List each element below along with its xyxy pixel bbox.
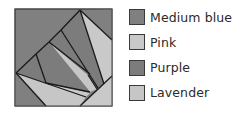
legend-item-purple: Purple	[129, 60, 236, 76]
medium-blue-swatch	[129, 9, 145, 25]
quilt-block	[0, 0, 120, 114]
purple-swatch	[129, 60, 145, 76]
legend-label: Purple	[150, 60, 190, 75]
pink-swatch	[129, 34, 145, 50]
legend: Medium blue Pink Purple Lavender	[129, 9, 236, 110]
lavender-swatch	[129, 85, 145, 101]
legend-item-medium-blue: Medium blue	[129, 9, 236, 25]
legend-item-lavender: Lavender	[129, 85, 236, 101]
quilt-block-drawing	[0, 0, 120, 114]
legend-label: Medium blue	[150, 10, 232, 25]
legend-item-pink: Pink	[129, 34, 236, 50]
legend-label: Lavender	[150, 85, 209, 100]
legend-label: Pink	[150, 35, 176, 50]
